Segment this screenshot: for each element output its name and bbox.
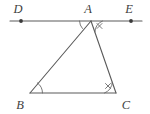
segment-AB — [30, 21, 91, 93]
point-marker-E — [129, 19, 133, 23]
angle-mark-ACB — [105, 82, 113, 93]
angle-mark-DAB — [80, 21, 83, 29]
label-point-C: C — [122, 98, 131, 112]
angle-mark-EAC — [95, 21, 103, 32]
angle-mark-ABC — [37, 83, 42, 93]
angle-arc-DAB — [80, 21, 83, 29]
label-point-A: A — [83, 2, 92, 16]
angle-arc-ABC — [37, 83, 42, 93]
label-point-E: E — [124, 2, 133, 16]
geometry-canvas: D A E B C — [0, 0, 150, 114]
point-marker-D — [19, 19, 23, 23]
label-point-D: D — [12, 2, 22, 16]
geometry-diagram: D A E B C — [0, 0, 150, 114]
label-point-B: B — [16, 98, 24, 112]
